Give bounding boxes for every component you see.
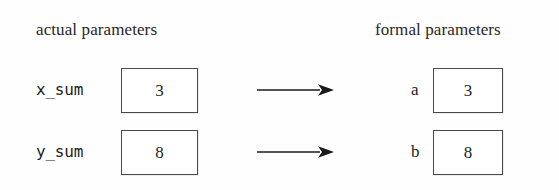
actual-parameters-header: actual parameters bbox=[36, 20, 157, 39]
formal-parameter-value: 8 bbox=[464, 143, 473, 163]
formal-parameter-name: a bbox=[411, 68, 419, 112]
actual-parameter-name: y_sum bbox=[36, 130, 83, 174]
formal-parameter-value-box: 3 bbox=[433, 68, 503, 113]
parameter-row: x_sum 3 a 3 bbox=[0, 68, 559, 114]
right-arrow-icon bbox=[256, 142, 336, 162]
formal-parameter-value: 3 bbox=[464, 81, 473, 101]
parameter-row: y_sum 8 b 8 bbox=[0, 130, 559, 176]
actual-parameter-value: 8 bbox=[155, 143, 164, 163]
actual-parameter-value: 3 bbox=[155, 81, 164, 101]
right-arrow-icon bbox=[256, 80, 336, 100]
actual-parameter-value-box: 8 bbox=[121, 130, 198, 175]
actual-parameter-name: x_sum bbox=[36, 68, 83, 112]
formal-parameter-name: b bbox=[411, 130, 420, 174]
formal-parameter-value-box: 8 bbox=[433, 130, 503, 175]
formal-parameters-header: formal parameters bbox=[375, 20, 501, 39]
actual-parameter-value-box: 3 bbox=[121, 68, 198, 113]
parameter-passing-diagram: actual parameters formal parameters x_su… bbox=[0, 0, 559, 190]
